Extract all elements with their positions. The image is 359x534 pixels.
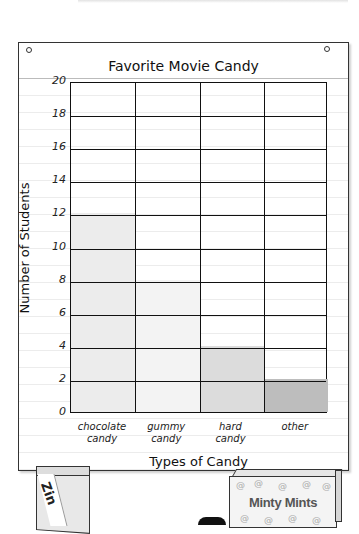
punch-hole-left xyxy=(26,47,32,53)
grid-line-horizontal xyxy=(71,116,326,117)
y-tick-label: 12 xyxy=(38,206,66,219)
y-tick-label: 8 xyxy=(38,273,66,286)
y-tick-label: 14 xyxy=(38,173,66,186)
grid-line-horizontal xyxy=(71,282,326,283)
candy-piece xyxy=(198,517,226,525)
grid-line-vertical xyxy=(200,83,201,412)
grid-line-horizontal xyxy=(71,182,326,183)
x-category-label: gummycandy xyxy=(134,421,198,445)
y-tick-label: 20 xyxy=(38,74,66,87)
chart-title: Favorite Movie Candy xyxy=(19,58,348,74)
bar-other xyxy=(264,379,328,412)
grid-line-vertical xyxy=(264,83,265,412)
candy-box-right-label: Minty Mints xyxy=(229,495,337,510)
paper-header: Favorite Movie Candy xyxy=(19,43,348,79)
punch-hole-right xyxy=(324,46,330,52)
bar-gummy-candy xyxy=(135,280,199,412)
y-tick-label: 2 xyxy=(38,372,66,385)
bar-chocolate-candy xyxy=(71,213,135,412)
y-tick-label: 6 xyxy=(38,306,66,319)
y-tick-label: 0 xyxy=(38,405,66,418)
y-tick-label: 18 xyxy=(38,107,66,120)
bar-hard-candy xyxy=(200,346,264,412)
x-category-label: other xyxy=(263,421,327,433)
grid-line-horizontal xyxy=(71,249,326,250)
chart-grid xyxy=(70,82,327,413)
grid-line-horizontal xyxy=(71,315,326,316)
y-tick-label: 10 xyxy=(38,240,66,253)
grid-line-horizontal xyxy=(71,381,326,382)
y-tick-label: 16 xyxy=(38,140,66,153)
x-category-label: chocolatecandy xyxy=(70,421,134,445)
x-axis-label: Types of Candy xyxy=(70,454,327,469)
grid-line-horizontal xyxy=(71,348,326,349)
top-shadow xyxy=(78,0,348,3)
y-axis-label: Number of Students xyxy=(17,183,32,314)
grid-line-horizontal xyxy=(71,149,326,150)
x-category-label: hardcandy xyxy=(199,421,263,445)
y-tick-label: 4 xyxy=(38,339,66,352)
grid-line-vertical xyxy=(135,83,136,412)
grid-line-horizontal xyxy=(71,215,326,216)
